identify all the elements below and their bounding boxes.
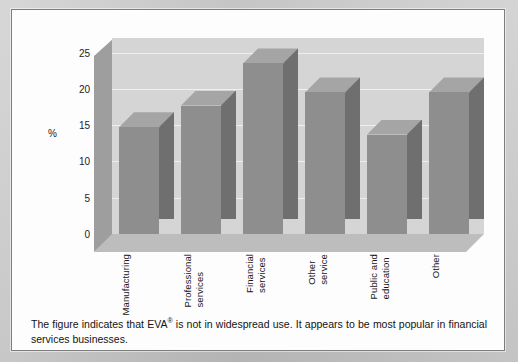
- y-tick-10: 10: [79, 156, 90, 167]
- y-tick-15: 15: [79, 120, 90, 131]
- category-label-line: Other: [307, 254, 317, 285]
- category-label-line: Financial: [245, 254, 255, 293]
- gridline: [112, 53, 484, 54]
- caption-prefix: The figure indicates that: [31, 318, 147, 330]
- bar-front-face: [243, 63, 283, 234]
- bar-front-face: [429, 92, 469, 234]
- bar-side-face: [221, 91, 236, 219]
- scanned-page-background: % 0510152025 ManufacturingProfessionalse…: [0, 0, 518, 362]
- caption-term: EVA: [147, 318, 167, 330]
- bar-side-face: [407, 120, 422, 219]
- category-label-line: service: [319, 254, 329, 285]
- bar-front-face: [181, 106, 221, 234]
- figure-panel: % 0510152025 ManufacturingProfessionalse…: [11, 9, 505, 351]
- category-label-line: education: [381, 254, 391, 299]
- y-tick-25: 25: [79, 47, 90, 58]
- category-label-5: Other: [431, 254, 441, 278]
- category-label-0: Manufacturing: [121, 254, 131, 316]
- category-label-line: Other: [431, 254, 441, 278]
- figure-caption: The figure indicates that EVA® is not in…: [31, 316, 487, 347]
- plot-area-3d: [94, 38, 484, 252]
- category-label-1: Professionalservices: [183, 254, 204, 307]
- plot-floor: [94, 234, 484, 254]
- category-label-line: services: [195, 254, 205, 307]
- bar-side-face: [283, 48, 298, 219]
- bar-2: [243, 48, 283, 234]
- category-label-4: Public andeducation: [369, 254, 390, 299]
- category-label-line: services: [257, 254, 267, 293]
- x-axis-category-labels: ManufacturingProfessionalservicesFinanci…: [94, 254, 484, 312]
- bar-5: [429, 77, 469, 234]
- bar-4: [367, 120, 407, 234]
- bar-front-face: [305, 92, 345, 234]
- bar-1: [181, 91, 221, 234]
- bar-side-face: [159, 112, 174, 219]
- bar-chart: % 0510152025 ManufacturingProfessionalse…: [12, 10, 504, 310]
- category-label-line: Professional: [183, 254, 193, 307]
- bar-side-face: [345, 77, 360, 219]
- bar-front-face: [119, 127, 159, 234]
- y-tick-20: 20: [79, 83, 90, 94]
- y-axis-label: %: [48, 128, 57, 139]
- category-label-3: Otherservice: [307, 254, 328, 285]
- y-tick-5: 5: [84, 192, 90, 203]
- bar-side-face: [469, 77, 484, 219]
- plot-left-wall: [94, 38, 114, 252]
- y-tick-0: 0: [84, 229, 90, 240]
- bar-3: [305, 77, 345, 234]
- category-label-line: Public and: [369, 254, 379, 299]
- bar-front-face: [367, 135, 407, 234]
- y-axis-tick-labels: 0510152025: [60, 38, 90, 254]
- bar-0: [119, 112, 159, 234]
- category-label-2: Financialservices: [245, 254, 266, 293]
- category-label-line: Manufacturing: [121, 254, 131, 316]
